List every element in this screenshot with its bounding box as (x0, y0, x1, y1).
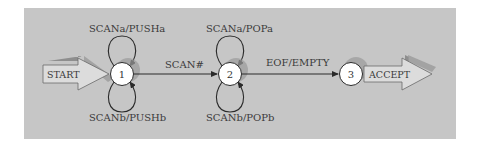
transition-2-3-label: EOF/EMPTY (266, 57, 330, 68)
transition-1-2-label: SCAN# (165, 59, 204, 70)
loop-2-bottom-label: SCANb/POPb (206, 112, 274, 123)
loop-1-bottom-label: SCANb/PUSHb (89, 112, 166, 123)
loop-1-top-label: SCANa/PUSHa (89, 23, 165, 34)
state-3-label: 3 (348, 69, 354, 80)
state-1-label: 1 (119, 69, 125, 80)
start-label: START (47, 69, 80, 80)
loop-2-top-label: SCANa/POPa (206, 23, 273, 34)
state-diagram: START SCANa/PUSHa SCANb/PUSHb 1 SCAN# SC… (0, 0, 481, 149)
accept-label: ACCEPT (368, 69, 411, 80)
state-2-label: 2 (227, 69, 233, 80)
